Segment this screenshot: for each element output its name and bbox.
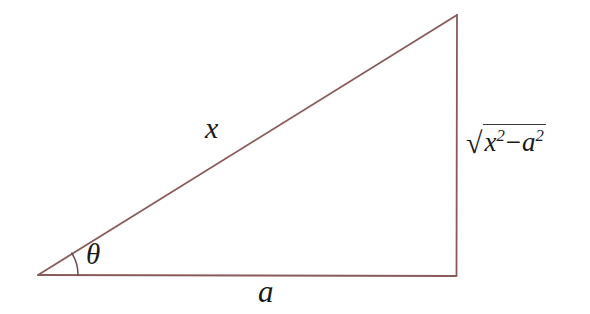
figure-canvas: x a θ √x2−a2 xyxy=(0,0,590,314)
hypotenuse-label: x xyxy=(205,113,218,143)
radical-expression: √x2−a2 xyxy=(466,124,546,160)
opposite-side-label: √x2−a2 xyxy=(466,124,546,160)
hypotenuse-line xyxy=(38,15,457,275)
angle-theta-label: θ xyxy=(86,240,100,269)
radicand-second-term: a xyxy=(522,127,536,157)
angle-arc xyxy=(72,253,78,275)
radicand-first-exponent: 2 xyxy=(496,126,504,145)
radicand: x2−a2 xyxy=(483,124,545,160)
radicand-operator: − xyxy=(505,127,522,157)
radical-sign-icon: √ xyxy=(466,128,483,158)
radicand-first-term: x xyxy=(484,127,496,157)
base-line xyxy=(38,275,456,276)
base-label: a xyxy=(258,276,274,307)
radicand-second-exponent: 2 xyxy=(536,126,544,145)
opposite-side-line xyxy=(457,15,458,276)
